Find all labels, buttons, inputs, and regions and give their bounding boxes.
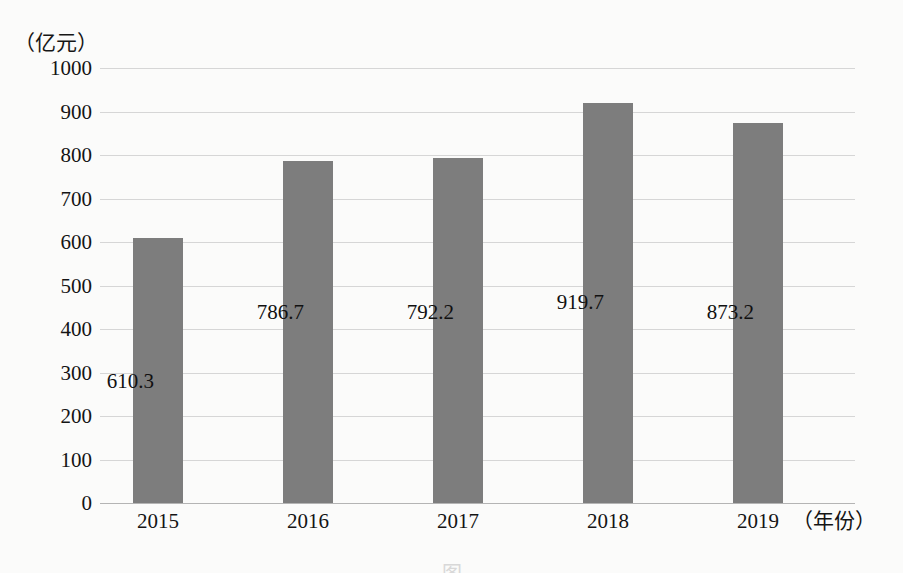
y-tick-label: 700 [8,189,92,210]
y-tick-label: 100 [8,450,92,471]
y-axis-unit-label: （亿元） [14,26,98,56]
plot-area: 610.3 786.7 792.2 919.7 873.2 [100,68,855,503]
value-label-2019: 873.2 [688,302,754,323]
y-tick-label: 200 [8,406,92,427]
value-label-2018: 919.7 [538,292,604,313]
y-tick-label: 1000 [8,58,92,79]
y-tick-label: 500 [8,276,92,297]
y-tick-label: 800 [8,145,92,166]
gridline-900 [100,112,855,113]
x-tick-label-2016: 2016 [258,508,358,534]
y-axis-tick-labels: 1000 900 800 700 600 500 400 300 200 100… [0,68,92,503]
y-tick-label: 900 [8,102,92,123]
y-tick-label: 300 [8,363,92,384]
x-axis-baseline [100,503,855,504]
gridline-1000 [100,68,855,69]
y-tick-label: 600 [8,232,92,253]
x-tick-label-2018: 2018 [558,508,658,534]
bar-2016[interactable] [283,161,333,503]
x-tick-label-2017: 2017 [408,508,508,534]
value-label-2015: 610.3 [88,371,154,392]
figure-caption: 图 [0,561,903,573]
x-tick-label-2015: 2015 [108,508,208,534]
y-tick-label: 400 [8,319,92,340]
value-label-2016: 786.7 [238,302,304,323]
x-axis-tick-labels: 2015 2016 2017 2018 2019 [100,508,855,540]
y-tick-label: 0 [8,493,92,514]
value-label-2017: 792.2 [388,302,454,323]
x-axis-unit-label: （年份） [792,508,876,534]
bar-2017[interactable] [433,158,483,503]
bar-chart-figure: （亿元） 1000 900 800 700 600 500 400 300 20… [0,0,903,573]
